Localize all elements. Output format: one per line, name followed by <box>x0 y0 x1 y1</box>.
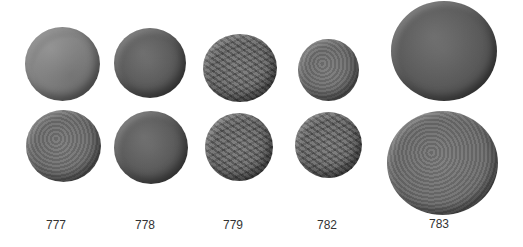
catalog-label-782: 782 <box>307 218 347 232</box>
catalog-label-779: 779 <box>213 218 253 232</box>
coin-782-obverse <box>298 39 359 101</box>
catalog-label-777: 777 <box>36 218 76 232</box>
coin-783-obverse <box>391 1 497 101</box>
coin-777-obverse <box>25 27 100 101</box>
coin-777-reverse <box>26 110 101 182</box>
catalog-label-783: 783 <box>419 217 459 231</box>
catalog-label-778: 778 <box>125 218 165 232</box>
coin-782-reverse <box>295 112 362 178</box>
coin-783-reverse <box>387 111 498 215</box>
coin-779-reverse <box>205 113 273 181</box>
coin-778-obverse <box>114 28 186 98</box>
coin-778-reverse <box>114 111 188 184</box>
coin-779-obverse <box>203 34 277 102</box>
